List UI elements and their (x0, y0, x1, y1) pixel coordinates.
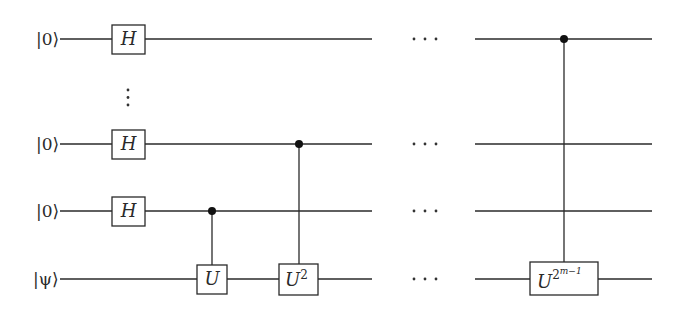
qubit-label-2: |0⟩ (36, 201, 59, 221)
gate-u-label: U (285, 269, 301, 290)
qubit-label-1: |0⟩ (36, 134, 59, 154)
hadamard-gate-q1: H (112, 130, 145, 159)
controlled-u-gate: U (197, 207, 227, 294)
horizontal-ellipsis-q3 (413, 278, 438, 281)
control-dot (295, 140, 303, 148)
horizontal-ellipsis-q0 (413, 38, 438, 41)
qubit-label-psi: |ψ⟩ (33, 269, 59, 289)
gate-u-label: U (537, 271, 553, 292)
hadamard-label: H (120, 200, 137, 221)
hadamard-gate-q0: H (112, 25, 145, 54)
horizontal-ellipsis-q1 (413, 143, 438, 146)
gate-exponent-superscript: m−1 (560, 266, 582, 276)
controlled-u-power-gate: U2m−1 (530, 35, 598, 295)
horizontal-ellipsis-q2 (413, 210, 438, 213)
gate-exponent: 2 (300, 268, 308, 282)
hadamard-gate-q2: H (112, 197, 145, 226)
hadamard-label: H (120, 133, 137, 154)
gate-u-label: U (204, 268, 220, 289)
control-dot (208, 207, 216, 215)
hadamard-label: H (120, 28, 137, 49)
quantum-circuit-diagram: |0⟩ |0⟩ |0⟩ |ψ⟩ H H H (0, 0, 686, 311)
gate-exponent: 2 (552, 268, 560, 282)
qubit-label-0: |0⟩ (36, 29, 59, 49)
vertical-ellipsis (127, 89, 130, 107)
control-dot (560, 35, 568, 43)
controlled-u-squared-gate: U2 (279, 140, 318, 295)
